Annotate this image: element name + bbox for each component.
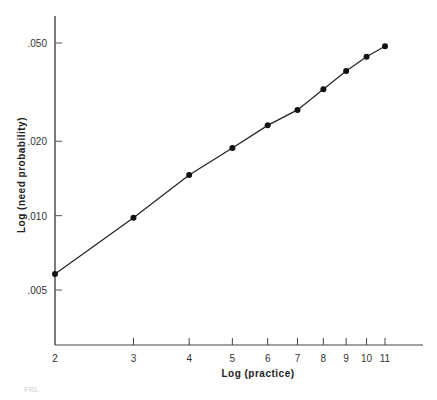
data-point xyxy=(295,107,301,113)
data-point xyxy=(364,54,370,60)
y-tick-label: .010 xyxy=(28,211,48,222)
x-tick-label: 5 xyxy=(230,353,236,364)
x-tick-label: 6 xyxy=(265,353,271,364)
x-tick-label: 7 xyxy=(295,353,301,364)
y-axis-label: Log (need probability) xyxy=(16,117,27,233)
x-tick-label: 10 xyxy=(361,353,373,364)
data-point xyxy=(130,215,136,221)
data-point xyxy=(320,86,326,92)
data-point xyxy=(186,172,192,178)
x-tick-label: 3 xyxy=(131,353,137,364)
data-point xyxy=(265,122,271,128)
y-tick-label: .050 xyxy=(28,38,48,49)
chart: 234567891011.005.010.020.050 Log (practi… xyxy=(0,0,437,400)
ticks: 234567891011.005.010.020.050 xyxy=(28,38,391,364)
data-point xyxy=(52,271,58,277)
data-point xyxy=(382,43,388,49)
x-tick-label: 9 xyxy=(343,353,349,364)
x-tick-label: 11 xyxy=(380,353,391,364)
x-tick-label: 4 xyxy=(186,353,192,364)
axes xyxy=(55,16,423,345)
series-line xyxy=(55,46,385,274)
x-tick-label: 2 xyxy=(52,353,58,364)
x-axis-label: Log (practice) xyxy=(221,368,294,379)
data-point xyxy=(229,145,235,151)
figure-caption: FIG. xyxy=(24,385,40,394)
data-point xyxy=(343,68,349,74)
y-tick-label: .005 xyxy=(28,285,48,296)
data-series xyxy=(52,43,388,277)
y-tick-label: .020 xyxy=(28,136,48,147)
x-tick-label: 8 xyxy=(321,353,327,364)
